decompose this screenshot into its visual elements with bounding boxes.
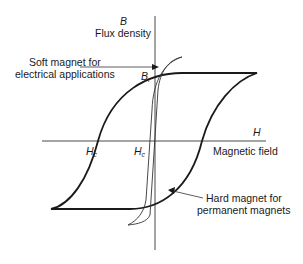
soft-magnet-label-line1: Soft magnet for <box>29 56 101 68</box>
hard-magnet-label-line2: permanent magnets <box>197 204 290 216</box>
x-axis-label: Magnetic field <box>213 145 278 157</box>
hard-magnet-arrowhead-icon <box>168 187 175 194</box>
hysteresis-diagram: B Flux density H Magnetic field Br Hc Hc… <box>0 0 303 264</box>
soft-magnet-arrowhead-icon <box>152 64 159 70</box>
coercivity-label-soft: Hc <box>134 145 146 158</box>
y-axis-label: Flux density <box>95 27 152 39</box>
hard-magnet-label-line1: Hard magnet for <box>206 192 282 204</box>
remanence-label: Br <box>141 70 151 83</box>
x-axis-symbol: H <box>253 126 261 138</box>
hard-magnet-arrow-line <box>173 191 203 198</box>
y-axis-symbol: B <box>120 15 127 27</box>
soft-magnet-label-line2: electrical applications <box>15 68 115 80</box>
